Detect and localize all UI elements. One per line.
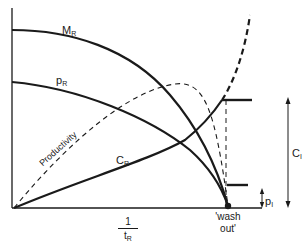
label-c-i-sub: I bbox=[300, 153, 302, 160]
label-wash-out: 'wash out' bbox=[208, 211, 248, 234]
x-axis-label-t-sub: R bbox=[127, 235, 132, 242]
label-m-r: MR bbox=[62, 25, 76, 37]
label-c-r: CR bbox=[116, 155, 129, 167]
label-p-r: pR bbox=[56, 75, 67, 87]
label-p-i-sub: I bbox=[271, 201, 273, 208]
label-c-r-main: C bbox=[116, 154, 124, 166]
curve-p-r bbox=[12, 82, 228, 206]
label-c-r-sub: R bbox=[124, 160, 129, 167]
wash-out-point bbox=[225, 203, 231, 209]
label-wash-out-line2: out' bbox=[208, 223, 248, 235]
x-axis-label: 1 tR bbox=[118, 216, 138, 242]
label-p-i: pI bbox=[265, 196, 273, 208]
curve-productivity bbox=[14, 84, 228, 208]
label-c-i: CI bbox=[292, 148, 302, 160]
c-i-double-arrow bbox=[286, 97, 291, 208]
p-i-double-arrow bbox=[260, 188, 264, 208]
curve-c-r-dashed bbox=[222, 15, 250, 100]
diagram-canvas bbox=[0, 0, 308, 245]
x-axis-label-numerator: 1 bbox=[118, 216, 138, 229]
label-p-r-sub: R bbox=[62, 80, 67, 87]
label-m-r-main: M bbox=[62, 24, 71, 36]
x-axis-label-denominator: tR bbox=[118, 229, 138, 242]
label-c-i-main: C bbox=[292, 147, 300, 159]
label-wash-out-line1: 'wash bbox=[208, 211, 248, 223]
curve-m-r bbox=[12, 30, 228, 206]
label-m-r-sub: R bbox=[71, 30, 76, 37]
